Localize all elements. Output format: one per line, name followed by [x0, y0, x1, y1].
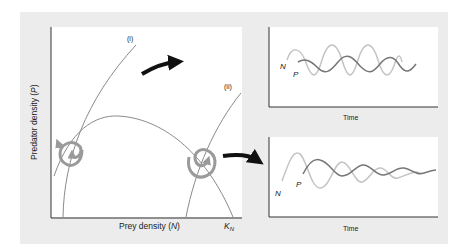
time-series-top: N P Time: [269, 27, 438, 121]
time-axis-label: Time: [343, 114, 358, 121]
predator-series-label: P: [293, 70, 299, 79]
predator-series-label: P: [296, 180, 302, 189]
isocline-ii-label: (ii): [224, 83, 232, 91]
x-axis-label: Prey density (N): [119, 221, 180, 231]
phase-plane-plot: (i) (ii) Prey density (N) KN Predator de…: [29, 27, 242, 232]
y-axis-label: Predator density (P): [29, 84, 39, 160]
isocline-i-label: (i): [127, 35, 133, 43]
prey-series-label: N: [280, 62, 286, 71]
time-axis-label: Time: [343, 225, 358, 232]
predator-prey-figure: (i) (ii) Prey density (N) KN Predator de…: [0, 0, 465, 251]
prey-series-label: N: [275, 189, 281, 198]
